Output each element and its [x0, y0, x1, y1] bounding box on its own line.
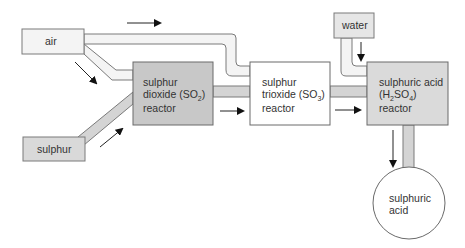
so3-to-h2so4-pipe [330, 86, 367, 97]
so2-to-so3-pipe [213, 86, 250, 97]
h2so4-to-product-pipe [403, 125, 414, 169]
sulphur-label: sulphur [37, 143, 71, 155]
arrow-icon [75, 62, 96, 83]
sulphur-to-so2-pipe [78, 92, 133, 145]
air-to-so2-pipe [84, 44, 133, 80]
so3-reactor-label: sulphur trioxide (SO3) reactor [262, 76, 325, 114]
arrow-icon [100, 129, 122, 147]
air-label: air [45, 35, 57, 47]
water-to-h2so4-pipe [341, 38, 367, 76]
so2-reactor-label: sulphur dioxide (SO2) reactor [143, 76, 205, 114]
product-label: sulphuric acid [389, 192, 431, 216]
h2so4-reactor-label: sulphuric acid (H2SO4) reactor [379, 76, 443, 114]
water-label: water [342, 19, 368, 31]
